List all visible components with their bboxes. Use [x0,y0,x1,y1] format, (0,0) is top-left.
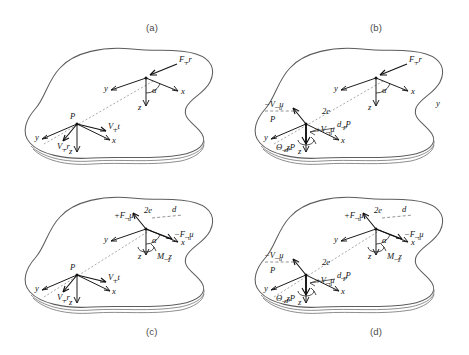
axis-label-z-d-upper: z [367,251,372,261]
axis-label-x-a-lower: x [111,135,116,145]
distance-label-c: d [172,204,177,214]
angle-label-a: α [152,85,157,95]
velocity-positive-sub-d: u [329,281,332,287]
extra-label-y-b: y [435,98,440,108]
panel-d: +F_u u −F_u u 2e d α M_z z y x z [232,185,469,320]
point-p-label-a: P [69,111,76,121]
distance-sub-b: P [342,125,347,131]
distance-sub-d: P [342,276,347,282]
panel-caption-c: (c) [146,326,158,337]
axis-label-z-b-upper: z [367,102,372,112]
axis-label-z-d-lower: z [297,297,302,307]
axis-label-x-b-upper: x [410,86,415,96]
axis-label-y-d-lower: y [263,283,268,293]
panel-d-drawing: +F_u u −F_u u 2e d α M_z z y x z [232,185,469,320]
angle-label-b: α [382,85,387,95]
axis-label-y-c-lower: y [34,283,39,293]
panel-c-drawing: +F_u u −F_u u 2e d α M_z z y x z [0,185,235,320]
velocity-negative-sub-b: u [279,105,282,111]
panel-a: F_r r α y x z [0,40,235,170]
rotation-sub-d: zP [283,298,290,304]
axis-label-x-c-lower: x [111,286,116,296]
axis-label-z-c-lower: z [68,297,73,307]
angle-label-c: α [152,235,157,245]
axis-label-y-b-upper: y [333,83,338,93]
velocity-positive-sub-b: u [329,130,332,136]
velocity-negative-sub-d: u [279,256,282,262]
axis-label-z-a-lower: z [68,146,73,156]
eccentricity-label-d-lower: 2e [322,257,330,267]
force-negative-sub-d: u [418,235,421,241]
force-positive-sub-d: u [358,216,361,222]
axis-label-x-a-upper: x [180,86,185,96]
axis-label-z-c-upper: z [137,251,142,261]
distance-label-d-upper: d [402,204,407,214]
point-p-label-c: P [69,262,76,272]
force-positive-sub-c: u [128,216,131,222]
velocity-tangential-sub-a: t [115,127,117,133]
axis-label-y-a-upper: y [103,83,108,93]
rotation-sub-b: zP [283,147,290,153]
axis-label-x-d-upper: x [410,237,415,247]
panel-caption-a: (a) [146,22,158,33]
eccentricity-label-b: 2e [322,106,330,116]
axis-label-z-a-upper: z [137,102,142,112]
velocity-tangential-sub-c: t [115,278,117,284]
figure-root: (a) [0,0,469,355]
axis-label-y-d-upper: y [333,234,338,244]
force-negative-sub-c: u [188,235,191,241]
eccentricity-label-d-upper: 2e [374,205,382,215]
point-p-label-b: P [269,114,276,124]
axis-label-y-a-lower: y [34,132,39,142]
eccentricity-label-c: 2e [144,205,152,215]
axis-label-x-c-upper: x [180,237,185,247]
panel-b: F_r r α y x z [232,40,469,170]
axis-label-x-d-lower: x [340,286,345,296]
panel-b-drawing: F_r r α y x z [232,40,469,170]
axis-label-y-b-lower: y [263,132,268,142]
axis-label-z-b-lower: z [297,146,302,156]
panel-a-drawing: F_r r α y x z [0,40,235,170]
panel-caption-d: (d) [370,326,382,337]
panel-caption-b: (b) [370,22,382,33]
axis-label-x-b-lower: x [340,135,345,145]
axis-label-y-c-upper: y [103,234,108,244]
panel-c: +F_u u −F_u u 2e d α M_z z y x z [0,185,235,320]
point-p-label-d: P [269,265,276,275]
angle-label-d: α [382,235,387,245]
